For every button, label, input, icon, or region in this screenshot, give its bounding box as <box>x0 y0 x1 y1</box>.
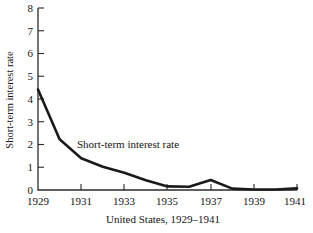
x-tick-label-1939: 1939 <box>243 195 266 207</box>
y-tick-label-2: 2 <box>28 138 34 150</box>
x-tick-label-1941: 1941 <box>284 195 306 207</box>
y-tick-label-7: 7 <box>28 25 34 37</box>
y-tick-label-3: 3 <box>28 116 34 128</box>
y-axis-ticks <box>38 8 44 167</box>
y-tick-label-1: 1 <box>28 161 34 173</box>
x-tick-label-1935: 1935 <box>156 195 179 207</box>
y-tick-label-6: 6 <box>28 47 34 59</box>
axis-lines <box>38 8 297 190</box>
y-tick-label-4: 4 <box>28 93 34 105</box>
x-axis-caption: United States, 1929–1941 <box>106 213 220 225</box>
y-tick-label-8: 8 <box>28 2 34 14</box>
series-annotation-label: Short-term interest rate <box>77 138 179 150</box>
x-tick-label-1929: 1929 <box>27 195 50 207</box>
y-axis-title: Short-term interest rate <box>4 51 15 149</box>
x-tick-label-1937: 1937 <box>200 195 223 207</box>
chart-figure: Short-term interest rate 8 7 6 5 4 3 2 1… <box>0 0 313 233</box>
x-tick-label-1931: 1931 <box>70 195 92 207</box>
x-tick-label-1933: 1933 <box>113 195 136 207</box>
y-tick-label-5: 5 <box>28 70 34 82</box>
chart-plot-area: Short-term interest rate 8 7 6 5 4 3 2 1… <box>0 0 313 233</box>
